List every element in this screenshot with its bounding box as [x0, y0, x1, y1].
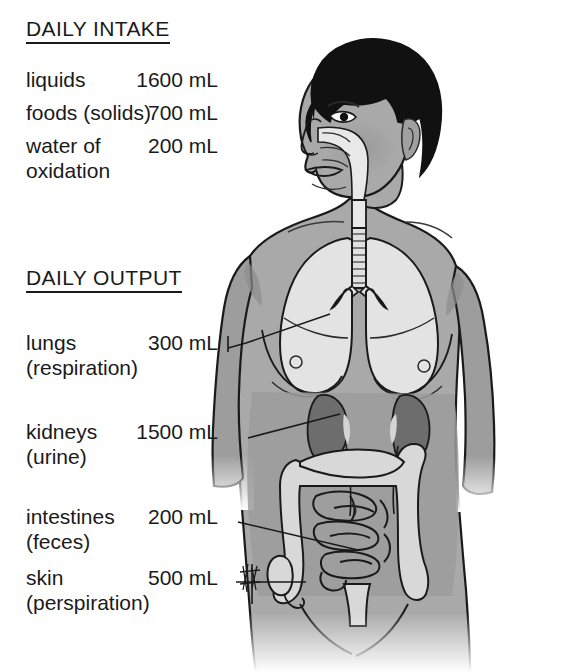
output-value: 200 mL	[70, 505, 218, 529]
output-sublabel: (urine)	[26, 445, 87, 469]
heading-underline	[26, 42, 170, 44]
daily-intake-heading-text: DAILY INTAKE	[26, 17, 170, 40]
daily-intake-heading: DAILY INTAKE	[26, 17, 170, 44]
output-label: lungs	[26, 331, 76, 355]
intake-value: 1600 mL	[86, 68, 218, 92]
output-label: skin	[26, 566, 63, 590]
output-value: 300 mL	[70, 331, 218, 355]
output-value: 500 mL	[70, 566, 218, 590]
labels-layer: DAILY INTAKE liquids 1600 mL foods (soli…	[0, 0, 562, 672]
output-value: 1500 mL	[70, 420, 218, 444]
output-sublabel: (feces)	[26, 530, 90, 554]
intake-value: 200 mL	[86, 134, 218, 158]
output-sublabel: (perspiration)	[26, 591, 150, 615]
output-sublabel: (respiration)	[26, 356, 138, 380]
heading-underline	[26, 291, 182, 293]
intake-sublabel: oxidation	[26, 159, 110, 183]
intake-label: liquids	[26, 68, 86, 92]
daily-output-heading-text: DAILY OUTPUT	[26, 266, 182, 289]
intake-value: 700 mL	[86, 101, 218, 125]
daily-output-heading: DAILY OUTPUT	[26, 266, 182, 293]
